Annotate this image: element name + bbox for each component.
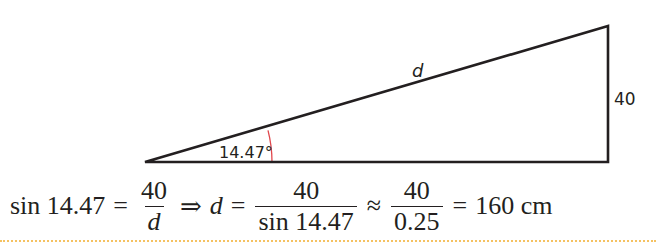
numerator: 40 xyxy=(138,178,170,206)
hypotenuse-label: d xyxy=(412,60,424,81)
denominator: 0.25 xyxy=(391,206,443,235)
denominator: d xyxy=(145,206,164,235)
fraction-40-over-025: 40 0.25 xyxy=(391,178,443,235)
equals-sign: = xyxy=(453,191,468,221)
sine-term: sin 14.47 xyxy=(10,191,105,221)
numerator: 40 xyxy=(401,178,433,206)
sine-equation: sin 14.47 = 40 d ⇒ d = 40 sin 14.47 ≈ 40… xyxy=(10,181,553,231)
right-triangle xyxy=(145,26,608,162)
result-value: 160 cm xyxy=(475,191,552,221)
equals-sign: = xyxy=(231,191,246,221)
denominator: sin 14.47 xyxy=(255,206,356,235)
diagram-canvas: d 40 14.47° sin 14.47 = 40 d ⇒ d = 40 si… xyxy=(0,0,659,247)
angle-label: 14.47° xyxy=(219,143,273,162)
fraction-40-over-d: 40 d xyxy=(138,178,170,235)
variable-d: d xyxy=(210,191,223,221)
fraction-40-over-sin: 40 sin 14.47 xyxy=(255,178,356,235)
section-divider xyxy=(0,240,656,242)
implies-arrow: ⇒ xyxy=(180,191,202,222)
approx-sign: ≈ xyxy=(367,191,381,221)
side-length-label: 40 xyxy=(614,89,636,109)
equals-sign: = xyxy=(113,191,128,221)
numerator: 40 xyxy=(290,178,322,206)
